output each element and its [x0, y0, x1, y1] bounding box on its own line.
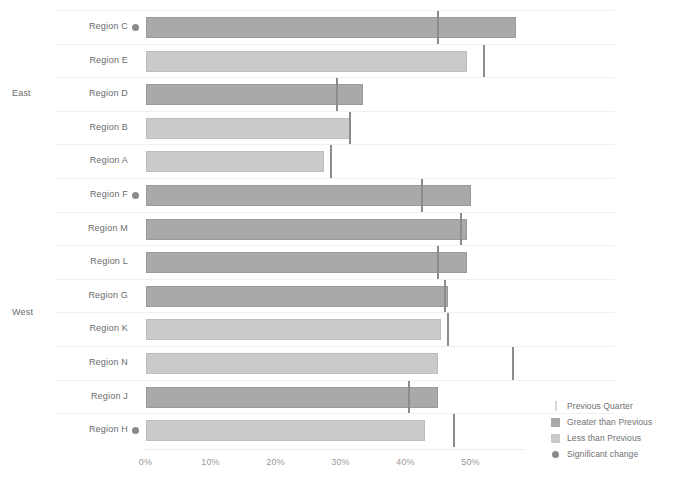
legend-item[interactable]: Previous Quarter — [549, 398, 673, 414]
bullet-bar-chart: Region CRegion ERegion DRegion BRegion A… — [0, 0, 673, 480]
significant-change-dot — [132, 24, 139, 31]
chart-legend: Previous QuarterGreater than PreviousLes… — [549, 398, 673, 462]
bar-region-e[interactable] — [146, 51, 468, 72]
legend-greater-swatch-icon — [551, 418, 560, 427]
bar-region-h[interactable] — [146, 420, 426, 441]
previous-quarter-marker — [421, 179, 423, 212]
x-tick-label: 40% — [396, 457, 415, 467]
row-separator — [55, 10, 615, 11]
group-label-west: West — [12, 307, 33, 317]
row-label-region-k: Region K — [89, 323, 128, 333]
group-label-east: East — [12, 88, 31, 98]
row-separator — [55, 413, 615, 414]
row-label-region-d: Region D — [89, 88, 128, 98]
chart-row: Region F — [0, 178, 673, 212]
legend-item[interactable]: Significant change — [549, 446, 673, 462]
previous-quarter-marker — [460, 213, 462, 246]
previous-quarter-marker — [437, 246, 439, 279]
chart-row: Region A — [0, 144, 673, 178]
legend-label: Less than Previous — [567, 430, 641, 446]
bar-region-a[interactable] — [146, 151, 325, 172]
legend-line-icon — [555, 401, 557, 411]
legend-item[interactable]: Less than Previous — [549, 430, 673, 446]
significant-change-dot — [132, 427, 139, 434]
bar-region-c[interactable] — [146, 17, 517, 38]
previous-quarter-marker — [408, 381, 410, 414]
row-separator — [55, 380, 615, 381]
row-label-region-m: Region M — [88, 223, 128, 233]
row-label-region-c: Region C — [89, 21, 128, 31]
bar-region-n[interactable] — [146, 353, 439, 374]
previous-quarter-marker — [349, 112, 351, 145]
bar-region-d[interactable] — [146, 84, 364, 105]
row-separator — [55, 279, 615, 280]
legend-label: Greater than Previous — [567, 414, 652, 430]
row-label-region-e: Region E — [89, 55, 128, 65]
legend-less-swatch-icon — [551, 434, 560, 443]
legend-dot-icon — [552, 451, 559, 458]
previous-quarter-marker — [336, 78, 338, 111]
row-separator — [55, 77, 615, 78]
previous-quarter-marker — [483, 45, 485, 78]
row-separator — [55, 178, 615, 179]
legend-item[interactable]: Greater than Previous — [549, 414, 673, 430]
previous-quarter-marker — [447, 313, 449, 346]
significant-change-dot — [132, 192, 139, 199]
chart-row: Region D — [0, 77, 673, 111]
chart-row: Region E — [0, 44, 673, 78]
row-label-region-b: Region B — [89, 122, 128, 132]
chart-row: Region M — [0, 212, 673, 246]
bar-region-m[interactable] — [146, 219, 468, 240]
chart-row: Region N — [0, 346, 673, 380]
row-separator — [55, 111, 615, 112]
legend-label: Significant change — [567, 446, 638, 462]
x-tick-label: 0% — [139, 457, 152, 467]
x-tick-label: 50% — [461, 457, 480, 467]
row-label-region-j: Region J — [91, 391, 128, 401]
x-axis-line — [145, 449, 525, 450]
bar-region-g[interactable] — [146, 286, 448, 307]
legend-label: Previous Quarter — [567, 398, 633, 414]
x-tick-label: 20% — [266, 457, 285, 467]
bar-region-l[interactable] — [146, 252, 468, 273]
x-tick-label: 30% — [331, 457, 350, 467]
row-label-region-a: Region A — [90, 155, 128, 165]
previous-quarter-marker — [453, 414, 455, 447]
row-label-region-l: Region L — [90, 256, 128, 266]
row-label-region-f: Region F — [90, 189, 128, 199]
previous-quarter-marker — [512, 347, 514, 380]
row-label-region-n: Region N — [89, 357, 128, 367]
row-label-region-h: Region H — [89, 424, 128, 434]
row-separator — [55, 245, 615, 246]
x-tick-label: 10% — [201, 457, 220, 467]
row-separator — [55, 144, 615, 145]
row-label-region-g: Region G — [88, 290, 128, 300]
chart-row: Region G — [0, 279, 673, 313]
row-separator — [55, 212, 615, 213]
row-separator — [55, 44, 615, 45]
bar-region-j[interactable] — [146, 387, 439, 408]
chart-row: Region L — [0, 245, 673, 279]
chart-row: Region B — [0, 111, 673, 145]
bar-region-b[interactable] — [146, 118, 351, 139]
previous-quarter-marker — [437, 11, 439, 44]
row-separator — [55, 346, 615, 347]
bar-region-k[interactable] — [146, 319, 442, 340]
previous-quarter-marker — [444, 280, 446, 313]
previous-quarter-marker — [330, 145, 332, 178]
chart-row: Region C — [0, 10, 673, 44]
chart-row: Region K — [0, 312, 673, 346]
row-separator — [55, 312, 615, 313]
